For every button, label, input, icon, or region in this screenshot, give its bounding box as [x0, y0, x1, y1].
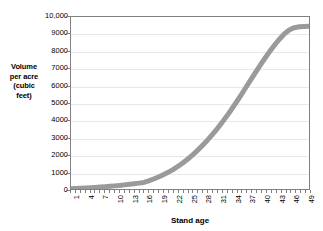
x-tick-mark [266, 190, 267, 193]
x-tick-mark [217, 190, 218, 193]
x-tick-mark [139, 190, 140, 193]
x-tick-mark [109, 190, 110, 193]
x-tick-label: 10 [117, 195, 125, 203]
x-tick-mark [232, 190, 233, 193]
x-tick-mark [119, 190, 120, 193]
x-tick-label: 49 [308, 195, 316, 203]
x-tick-label: 1 [73, 195, 81, 199]
x-tick-mark [305, 190, 306, 193]
x-tick-mark [178, 190, 179, 193]
x-tick-mark [129, 190, 130, 193]
x-tick-mark [158, 190, 159, 193]
x-tick-label: 31 [220, 195, 228, 203]
y-tick-label: 7000 [22, 64, 68, 72]
x-tick-mark [286, 190, 287, 193]
x-tick-label: 22 [176, 195, 184, 203]
y-tick-label: 6000 [22, 82, 68, 90]
x-tick-label: 37 [249, 195, 257, 203]
x-tick-mark [188, 190, 189, 193]
x-tick-label: 43 [279, 195, 287, 203]
x-tick-mark [207, 190, 208, 193]
x-tick-mark [134, 190, 135, 193]
volume-series-line [71, 17, 309, 189]
x-tick-mark [290, 190, 291, 193]
y-tick-label: 0 [22, 186, 68, 194]
x-tick-mark [241, 190, 242, 193]
chart-container: Volume per acre (cubic feet) 01000200030… [0, 0, 323, 231]
x-tick-mark [295, 190, 296, 193]
x-tick-mark [153, 190, 154, 193]
x-tick-mark [114, 190, 115, 193]
y-axis-title-line-2: per acre [2, 72, 46, 82]
x-tick-label: 40 [264, 195, 272, 203]
x-tick-mark [256, 190, 257, 193]
x-tick-label: 4 [88, 195, 96, 199]
y-tick-label: 10,000 [22, 12, 68, 20]
y-tick-label: 8000 [22, 47, 68, 55]
y-tick-label: 5000 [22, 99, 68, 107]
y-tick-label: 3000 [22, 134, 68, 142]
x-tick-mark [85, 190, 86, 193]
x-tick-mark [104, 190, 105, 193]
x-tick-mark [99, 190, 100, 193]
x-tick-label: 28 [205, 195, 213, 203]
x-tick-mark [202, 190, 203, 193]
x-tick-mark [80, 190, 81, 193]
x-tick-mark [300, 190, 301, 193]
x-tick-label: 13 [132, 195, 140, 203]
x-tick-mark [251, 190, 252, 193]
x-tick-mark [124, 190, 125, 193]
x-tick-mark [90, 190, 91, 193]
x-tick-label: 46 [293, 195, 301, 203]
y-tick-label: 4000 [22, 116, 68, 124]
x-tick-mark [237, 190, 238, 193]
x-tick-mark [70, 190, 71, 193]
x-tick-mark [168, 190, 169, 193]
x-tick-label: 25 [191, 195, 199, 203]
y-tick-label: 2000 [22, 151, 68, 159]
x-tick-label: 16 [146, 195, 154, 203]
x-tick-mark [271, 190, 272, 193]
y-tick-label: 9000 [22, 29, 68, 37]
x-tick-mark [310, 190, 311, 193]
x-tick-mark [163, 190, 164, 193]
x-tick-label: 7 [102, 195, 110, 199]
plot-area [70, 16, 310, 190]
x-tick-mark [246, 190, 247, 193]
x-tick-mark [227, 190, 228, 193]
x-tick-mark [276, 190, 277, 193]
x-tick-mark [192, 190, 193, 193]
x-tick-mark [94, 190, 95, 193]
x-tick-mark [281, 190, 282, 193]
y-tick-label: 1000 [22, 169, 68, 177]
x-tick-mark [75, 190, 76, 193]
x-tick-mark [261, 190, 262, 193]
x-tick-label: 34 [235, 195, 243, 203]
x-tick-mark [222, 190, 223, 193]
x-tick-label: 19 [161, 195, 169, 203]
x-tick-mark [197, 190, 198, 193]
x-tick-mark [173, 190, 174, 193]
x-tick-mark [183, 190, 184, 193]
x-tick-mark [148, 190, 149, 193]
x-tick-mark [143, 190, 144, 193]
x-tick-mark [212, 190, 213, 193]
x-axis-title: Stand age [70, 216, 310, 225]
